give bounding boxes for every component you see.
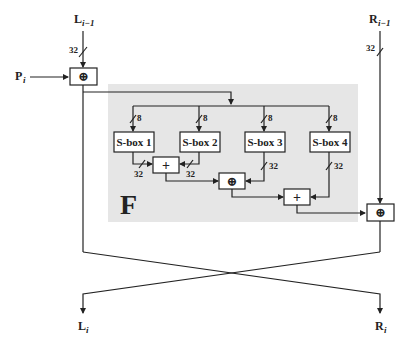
xor-icon: ⊕ <box>375 205 386 220</box>
svg-text:i−1: i−1 <box>378 18 390 28</box>
sbox-1: S-box 1 <box>114 132 154 152</box>
xor-icon: ⊕ <box>78 69 89 84</box>
sbox-2: S-box 2 <box>180 132 220 152</box>
sbox-4: S-box 4 <box>310 132 350 152</box>
blowfish-round-diagram: F L i−1 R i−1 P i 32 ⊕ 8 8 8 8 <box>0 0 407 345</box>
svg-text:R: R <box>375 319 384 333</box>
sbox-3: S-box 3 <box>245 132 285 152</box>
svg-text:P: P <box>15 69 22 83</box>
plus-icon: + <box>162 158 170 173</box>
cross-line-to-left <box>83 252 380 313</box>
svg-text:S-box 4: S-box 4 <box>312 136 348 148</box>
svg-text:8: 8 <box>268 113 273 123</box>
svg-text:32: 32 <box>186 169 196 179</box>
input-left-label: L i−1 <box>74 12 94 28</box>
svg-text:S-box 3: S-box 3 <box>247 136 283 148</box>
output-right-label: R i <box>375 319 387 335</box>
output-left-label: L i <box>78 319 89 335</box>
svg-text:8: 8 <box>333 113 338 123</box>
svg-text:32: 32 <box>269 161 279 171</box>
svg-text:L: L <box>74 12 82 26</box>
svg-text:L: L <box>78 319 86 333</box>
input-right-label: R i−1 <box>369 12 390 28</box>
width-label: 32 <box>366 43 376 53</box>
svg-text:8: 8 <box>203 113 208 123</box>
svg-text:8: 8 <box>137 113 142 123</box>
svg-text:i: i <box>384 325 387 335</box>
svg-text:i−1: i−1 <box>82 18 94 28</box>
svg-text:i: i <box>86 325 89 335</box>
f-function-panel <box>108 84 358 222</box>
svg-text:S-box 2: S-box 2 <box>182 136 218 148</box>
svg-text:S-box 1: S-box 1 <box>116 136 151 148</box>
width-label: 32 <box>69 45 79 55</box>
plus-icon: + <box>293 190 301 205</box>
xor-icon: ⊕ <box>227 174 238 189</box>
svg-text:i: i <box>23 75 26 85</box>
subkey-label: P i <box>15 69 26 85</box>
svg-text:R: R <box>369 12 378 26</box>
f-function-label: F <box>120 189 137 220</box>
svg-text:32: 32 <box>134 169 144 179</box>
svg-text:32: 32 <box>334 161 344 171</box>
cross-line-to-right <box>83 252 380 313</box>
